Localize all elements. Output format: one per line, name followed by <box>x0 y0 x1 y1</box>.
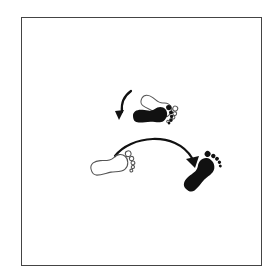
footwork-diagram <box>0 0 272 271</box>
lower-filled-footprint-icon <box>178 149 224 197</box>
pivot-arrow-icon <box>115 91 131 120</box>
lower-outline-footprint-icon <box>89 150 137 180</box>
